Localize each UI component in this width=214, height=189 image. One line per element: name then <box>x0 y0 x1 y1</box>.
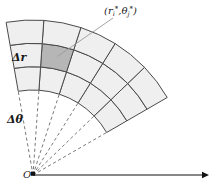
polar-cell-r0-t4 <box>14 67 40 92</box>
theta-symbol: θ <box>121 5 127 16</box>
origin-label: O <box>23 170 31 180</box>
paren-close: ) <box>133 5 137 16</box>
polar-cell-r2-t4 <box>6 20 44 45</box>
delta-r-label: Δr <box>12 52 26 63</box>
sample-point-label: (ri*,θj*) <box>104 6 137 16</box>
origin-dot <box>31 172 35 176</box>
dashed-ray-0 <box>33 133 107 176</box>
x-axis-group <box>33 172 209 178</box>
delta-theta-label: Δθ <box>7 114 23 125</box>
polar-grid-figure: Δr Δθ O (ri*,θj*) <box>0 0 214 189</box>
r-symbol: r <box>108 5 113 16</box>
dashed-ray-2 <box>33 103 78 175</box>
origin-dot-group <box>31 172 35 176</box>
theta-superscript: * <box>130 5 134 13</box>
x-axis-arrowhead <box>202 172 209 178</box>
polar-grid-svg <box>0 0 214 189</box>
r-superscript: * <box>115 5 119 13</box>
dashed-ray-4 <box>33 90 39 175</box>
dashed-ray-5 <box>18 91 33 175</box>
polar-cell-group <box>6 20 167 132</box>
